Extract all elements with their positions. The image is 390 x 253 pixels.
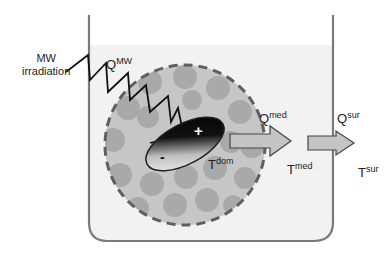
t-med-label: Tmed (287, 163, 312, 176)
q-sur-sup: sur (347, 110, 360, 120)
t-sur-base: T (358, 165, 366, 180)
q-med-label: Qmed (259, 112, 287, 125)
q-med-base: Q (259, 111, 269, 126)
dipole-minus-sign: - (160, 150, 165, 164)
t-med-base: T (287, 162, 295, 177)
q-sur-label: Qsur (337, 112, 360, 125)
t-dom-sup: dom (216, 156, 234, 166)
q-mw-base: Q (106, 57, 116, 72)
t-sur-label: Tsur (358, 166, 378, 179)
q-sur-base: Q (337, 111, 347, 126)
t-dom-label: Tdom (208, 158, 233, 171)
dipole-plus-sign: + (194, 123, 203, 138)
mw-label-line1: MW (22, 52, 70, 65)
q-mw-sup: MW (116, 56, 132, 66)
mw-irradiation-label: MW irradiation (22, 52, 70, 78)
mw-label-line2: irradiation (22, 65, 70, 78)
t-sur-sup: sur (366, 164, 379, 174)
t-dom-base: T (208, 157, 216, 172)
q-med-sup: med (269, 110, 287, 120)
q-mw-label: QMW (106, 58, 132, 71)
t-med-sup: med (295, 161, 313, 171)
